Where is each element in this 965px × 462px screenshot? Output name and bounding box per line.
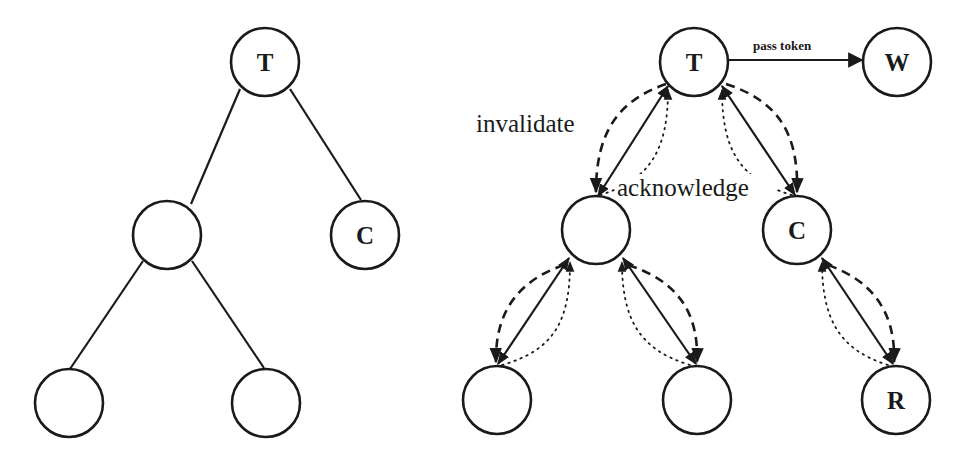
invalidate-label: invalidate: [476, 110, 575, 137]
node-right-w: W: [863, 28, 931, 96]
edge-group-mid-leaf-left: [496, 258, 570, 365]
right-tree: pass token invalidate acknowledge: [463, 28, 931, 434]
edge-group-c-r: [822, 258, 894, 365]
node-label-t: T: [257, 49, 274, 76]
edge-solid-mid-leafright: [623, 258, 696, 364]
acknowledge-label: acknowledge: [617, 174, 749, 201]
node-label-r: R: [887, 387, 906, 414]
node-label-w: W: [885, 49, 910, 76]
node-label-c: C: [788, 217, 806, 244]
node-left-leaf-right: [232, 369, 300, 437]
node-label-c: C: [356, 222, 374, 249]
edge-left-mid-to-leaf-right: [192, 261, 264, 368]
edge-ack-r-c: [822, 262, 888, 365]
node-right-mid: [562, 196, 630, 264]
edge-group-mid-leaf-right: [622, 258, 697, 365]
node-left-mid: [133, 201, 201, 269]
pass-token-label: pass token: [753, 38, 812, 53]
edge-left-mid-to-leaf-left: [70, 261, 143, 369]
edge-left-root-to-c: [290, 89, 361, 200]
edge-left-root-to-mid: [191, 89, 240, 204]
node-right-c: C: [763, 196, 831, 264]
node-right-root-t: T: [660, 28, 728, 96]
node-left-leaf-left: [35, 369, 103, 437]
node-left-root-t: T: [231, 28, 299, 96]
node-right-r: R: [862, 366, 930, 434]
node-right-leaf-right: [663, 366, 731, 434]
node-left-c: C: [331, 201, 399, 269]
edge-solid-c-r: [822, 258, 893, 364]
edge-solid-mid-leafleft: [498, 258, 569, 364]
edge-invalidate-c-r: [828, 265, 894, 362]
token-tree-diagram: T C pass token: [0, 0, 965, 462]
node-label-t: T: [686, 49, 703, 76]
left-tree: T C: [35, 28, 399, 437]
node-right-leaf-left: [463, 366, 531, 434]
